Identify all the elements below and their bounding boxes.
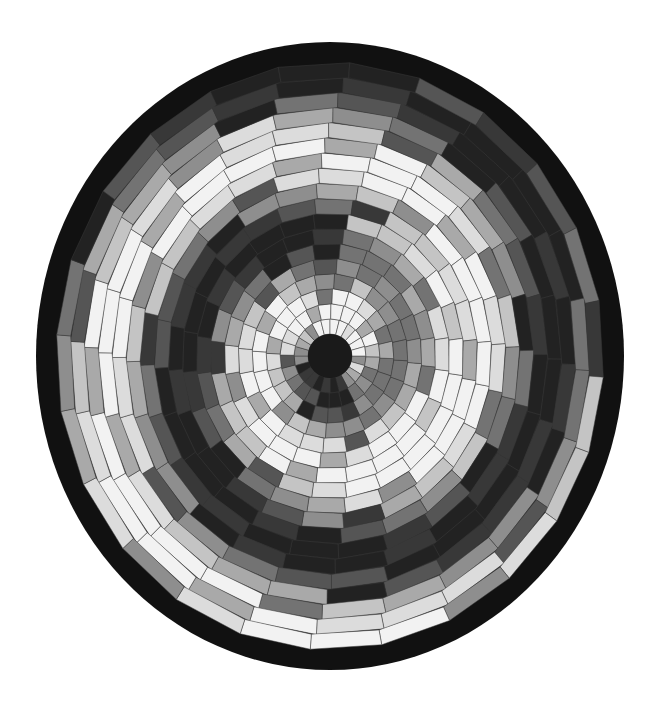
- quilt-patch: [449, 338, 463, 375]
- center-disk: [308, 334, 352, 378]
- quilt-patch: [476, 341, 492, 386]
- quilt-patch: [316, 289, 333, 305]
- quilt-patch: [238, 348, 253, 373]
- quilt-patch: [169, 326, 185, 371]
- quilt-patch: [316, 184, 358, 201]
- quilt-patch: [462, 339, 477, 380]
- quilt-patch: [393, 339, 408, 360]
- quilt-patch: [421, 338, 436, 367]
- quilt-patch: [313, 244, 341, 260]
- quilt-patch: [323, 437, 347, 453]
- quilt-patch: [252, 351, 267, 372]
- quilt-patch: [183, 331, 198, 372]
- quilt-patch: [327, 407, 344, 423]
- quilt-photo: [0, 0, 657, 711]
- quilt-patch: [316, 468, 347, 483]
- quilt-patch: [313, 214, 348, 229]
- quilt-patch: [266, 353, 281, 371]
- quilt-patch: [211, 341, 225, 374]
- quilt-patch: [313, 259, 337, 275]
- quilt-patch: [197, 336, 211, 373]
- center-disk-circle: [308, 334, 352, 378]
- spiral-quilt: [0, 0, 657, 711]
- quilt-patch: [307, 497, 346, 513]
- quilt-patch: [313, 229, 344, 244]
- quilt-patch: [435, 338, 449, 371]
- quilt-patch: [302, 512, 344, 529]
- quilt-patch: [379, 341, 394, 359]
- quilt-patch: [407, 338, 422, 363]
- quilt-patch: [320, 452, 348, 468]
- quilt-patch: [314, 274, 334, 290]
- quilt-patch: [225, 345, 240, 374]
- quilt-patch: [315, 199, 354, 215]
- quilt-patch: [312, 483, 347, 498]
- quilt-patch: [325, 422, 345, 438]
